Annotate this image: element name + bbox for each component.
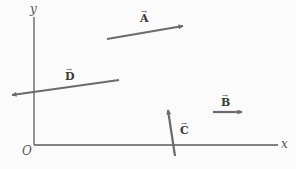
vector-a: A → [107,8,183,39]
vector-b: B → [213,92,242,112]
vector-c-arrow-accent: → [181,120,187,128]
vector-d-arrow-accent: → [66,66,72,74]
vector-a-arrow [107,26,183,39]
diagram-canvas: y x O A → B → C → D → [0,0,296,169]
vector-d: D → [12,66,119,95]
vector-diagram: y x O A → B → C → D → [0,0,296,169]
vector-c: C → [168,110,189,156]
vector-b-arrow-accent: → [222,92,228,100]
axes: y x O [22,2,288,158]
vectors: A → B → C → D → [12,8,242,156]
origin-label: O [22,144,32,158]
vector-c-arrow [168,110,175,156]
y-axis-label: y [29,2,37,16]
vector-a-arrow-accent: → [141,8,147,16]
x-axis-label: x [281,137,288,151]
